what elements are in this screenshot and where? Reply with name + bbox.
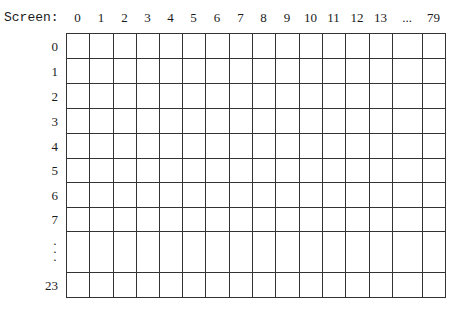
row-label: 5 xyxy=(20,163,58,179)
col-label: 11 xyxy=(322,10,345,26)
row-label: 23 xyxy=(20,278,58,294)
col-label: 4 xyxy=(159,10,182,26)
col-label: 9 xyxy=(275,10,299,26)
row-label: 1 xyxy=(20,64,58,80)
row-label: 6 xyxy=(20,188,58,204)
col-label: 79 xyxy=(422,10,445,26)
grid-row xyxy=(67,134,446,159)
col-label: 6 xyxy=(205,10,229,26)
row-label: 3 xyxy=(20,114,58,130)
col-label: 5 xyxy=(182,10,205,26)
screen-label: Screen: xyxy=(4,10,59,25)
col-label: 12 xyxy=(345,10,369,26)
grid-row xyxy=(67,159,446,183)
row-label: 0 xyxy=(20,39,58,55)
col-label: 13 xyxy=(369,10,392,26)
grid-row xyxy=(67,84,446,109)
grid-row xyxy=(67,59,446,84)
col-label-ellipsis: ... xyxy=(392,10,422,26)
grid-row xyxy=(67,109,446,134)
grid-row xyxy=(67,273,446,298)
col-label: 7 xyxy=(229,10,252,26)
grid-row xyxy=(67,208,446,232)
col-label: 0 xyxy=(66,10,89,26)
row-label: 2 xyxy=(20,89,58,105)
grid-row-ellipsis xyxy=(67,232,446,273)
grid-row xyxy=(67,183,446,208)
screen-grid xyxy=(66,33,446,298)
grid-row xyxy=(67,34,446,59)
col-label: 2 xyxy=(113,10,136,26)
col-label: 10 xyxy=(299,10,322,26)
col-label: 3 xyxy=(136,10,159,26)
col-label: 8 xyxy=(252,10,275,26)
row-label: 7 xyxy=(20,212,58,228)
row-label-vertical-ellipsis: ··· xyxy=(52,240,58,264)
row-label: 4 xyxy=(20,139,58,155)
col-label: 1 xyxy=(89,10,113,26)
